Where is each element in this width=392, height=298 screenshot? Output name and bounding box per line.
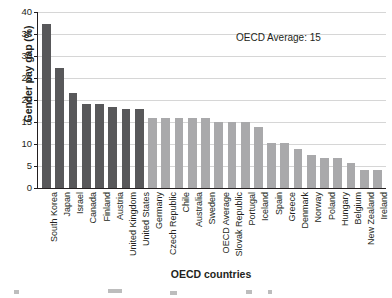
x-axis-tick-slot: Australia (185, 190, 198, 265)
x-axis-tick-slot: Austria (105, 190, 118, 265)
x-axis-tick-slot: Denmark (290, 190, 303, 265)
bar-series (38, 12, 386, 188)
x-axis-tick-labels: South KoreaJapanIsraelCanadaFinlandAustr… (37, 190, 385, 265)
scan-artifact-mark (108, 289, 122, 293)
y-axis-tick-label: 35 (2, 29, 32, 38)
y-axis-tick-label: 15 (2, 117, 32, 126)
bar-slot (371, 12, 384, 188)
bar (201, 118, 210, 188)
x-axis-tick-slot: Hungary (330, 190, 343, 265)
scan-artifact-mark (246, 290, 252, 294)
bar (214, 122, 223, 188)
y-axis-tick-labels: 0510152025303540 (0, 0, 36, 298)
bar (267, 143, 276, 188)
x-axis-tick-slot: Canada (79, 190, 92, 265)
x-axis-tick-label: Ireland (380, 192, 389, 220)
bar (135, 109, 144, 188)
x-axis-tick-slot: New Zealand (357, 190, 370, 265)
bar (161, 118, 170, 188)
bar-slot (199, 12, 212, 188)
x-axis-tick-slot: Ireland (370, 190, 383, 265)
bar-slot (133, 12, 146, 188)
x-axis-tick-slot: Germany (145, 190, 158, 265)
bar (42, 24, 51, 188)
bar (307, 155, 316, 188)
y-axis-tick-label: 10 (2, 139, 32, 148)
bar-slot (119, 12, 132, 188)
bar-slot (172, 12, 185, 188)
bar (108, 107, 117, 188)
bar (347, 163, 356, 188)
bar (294, 149, 303, 188)
x-axis-tick-slot: Israel (65, 190, 78, 265)
bar (122, 109, 131, 188)
oecd-average-annotation: OECD Average: 15 (236, 32, 321, 43)
plot-area (37, 12, 386, 189)
x-axis-tick-slot: United States (132, 190, 145, 265)
bar-slot (80, 12, 93, 188)
bar (148, 118, 157, 188)
y-axis-tick-label: 5 (2, 161, 32, 170)
bar-slot (186, 12, 199, 188)
x-axis-tick-slot: Finland (92, 190, 105, 265)
bar-slot (146, 12, 159, 188)
bar (228, 122, 237, 188)
x-axis-tick-slot: Iceland (251, 190, 264, 265)
scan-artifact-mark (268, 290, 272, 294)
bar (82, 104, 91, 188)
x-axis-tick-slot: Japan (52, 190, 65, 265)
x-axis-tick-slot: Chile (171, 190, 184, 265)
scan-artifact-mark (14, 290, 19, 294)
x-axis-tick-slot: Poland (317, 190, 330, 265)
bar (241, 122, 250, 188)
bar (280, 143, 289, 188)
x-axis-tick-slot: Slovak Republic (224, 190, 237, 265)
bar (360, 170, 369, 188)
y-axis-tick-label: 20 (2, 95, 32, 104)
bar (69, 93, 78, 188)
x-axis-tick-slot: South Korea (39, 190, 52, 265)
x-axis-tick-slot: OECD Average (211, 190, 224, 265)
x-axis-tick-slot: Greece (277, 190, 290, 265)
y-axis-tick-label: 25 (2, 73, 32, 82)
bar-slot (331, 12, 344, 188)
bar (175, 118, 184, 188)
y-axis-tick-label: 40 (2, 7, 32, 16)
bar (95, 104, 104, 188)
x-axis-tick-slot: Norway (304, 190, 317, 265)
x-axis-tick-slot: Czech Republic (158, 190, 171, 265)
bar (55, 68, 64, 188)
x-axis-tick-slot: Sweden (198, 190, 211, 265)
x-axis-tick-slot: Belgium (343, 190, 356, 265)
bar (333, 158, 342, 188)
bar-slot (344, 12, 357, 188)
y-axis-tick-label: 0 (2, 183, 32, 192)
x-axis-title: OECD countries (37, 268, 385, 280)
x-axis-tick-slot: United Kingdom (118, 190, 131, 265)
bar-slot (358, 12, 371, 188)
x-axis-tick-slot: Spain (264, 190, 277, 265)
y-axis-tick-label: 30 (2, 51, 32, 60)
scan-artifacts (0, 288, 392, 298)
x-axis-tick-slot: Portugal (238, 190, 251, 265)
bar-slot (93, 12, 106, 188)
gender-pay-gap-bar-chart: Gender pay gap (%) 0510152025303540 OECD… (0, 0, 392, 298)
bar-slot (66, 12, 79, 188)
bar (373, 170, 382, 188)
bar (320, 158, 329, 188)
bar (254, 127, 263, 188)
bar (188, 118, 197, 188)
bar-slot (40, 12, 53, 188)
bar-slot (159, 12, 172, 188)
bar-slot (212, 12, 225, 188)
scan-artifact-mark (170, 291, 177, 295)
bar-slot (106, 12, 119, 188)
bar-slot (53, 12, 66, 188)
